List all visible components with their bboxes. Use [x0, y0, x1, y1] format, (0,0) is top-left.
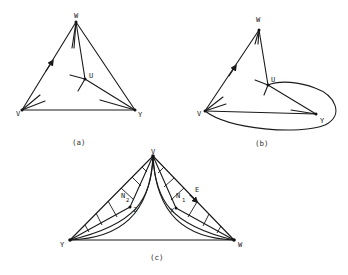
figure-canvas: W U V Y (a) W U V Y (b) — [0, 0, 348, 275]
label-n2: N — [121, 192, 125, 200]
tick-u-1 — [70, 75, 85, 79]
vertex-z-dot — [129, 206, 132, 209]
label-w: W — [74, 12, 79, 20]
vertex-y-dot — [68, 238, 72, 242]
edge-wv — [205, 30, 259, 111]
vertex-w-dot — [232, 238, 236, 242]
edge-wy — [76, 22, 135, 110]
hatching-n2 — [85, 167, 147, 232]
tick-v-1 — [205, 97, 223, 111]
arrow-wv — [229, 67, 235, 76]
panel-c: V Y W Z X E N 2 N 1 (c) — [60, 148, 243, 262]
vertex-u-dot — [84, 78, 87, 81]
label-z: Z — [133, 206, 137, 214]
label-y: Y — [60, 241, 65, 249]
vertex-u-dot — [267, 84, 270, 87]
caption-a: (a) — [72, 138, 86, 147]
tick-u-2 — [78, 79, 85, 91]
label-v: V — [16, 110, 21, 118]
label-v: V — [151, 148, 156, 156]
panel-a: W U V Y (a) — [16, 12, 143, 147]
tick-u-1 — [255, 80, 268, 85]
label-n1-sub: 1 — [182, 197, 185, 203]
caption-b: (b) — [255, 139, 269, 148]
caption-c: (c) — [150, 253, 164, 262]
label-w: W — [256, 16, 261, 24]
hatching-n1 — [158, 167, 221, 233]
label-n1: N — [176, 192, 180, 200]
tick-v-2 — [22, 101, 45, 110]
arrow-wv — [46, 62, 52, 71]
label-e: E — [195, 186, 199, 194]
vertex-w-dot — [75, 21, 78, 24]
edge-wu — [76, 22, 85, 79]
vertex-w-dot — [258, 29, 261, 32]
edge-loop-vu — [205, 82, 336, 130]
label-x: X — [170, 207, 175, 215]
vertex-x-dot — [175, 207, 178, 210]
edge-vy — [70, 156, 153, 240]
label-u: U — [271, 76, 275, 84]
tick-v-2 — [205, 104, 226, 111]
tick-u-2 — [264, 85, 268, 95]
vertex-y-dot — [315, 113, 318, 116]
label-y: Y — [138, 111, 143, 119]
vertex-y-dot — [134, 109, 137, 112]
label-y: Y — [320, 117, 325, 125]
vertex-v-dot — [21, 109, 24, 112]
edge-uy — [85, 79, 135, 110]
panel-b: W U V Y (b) — [197, 16, 336, 148]
tick-v-1 — [22, 95, 40, 110]
vertex-v-dot — [204, 110, 207, 113]
arrow-e — [190, 195, 196, 201]
label-u: U — [89, 72, 93, 80]
label-w: W — [238, 241, 243, 249]
label-v: V — [197, 110, 202, 118]
label-n2-sub: 2 — [126, 197, 129, 203]
edge-wu — [259, 30, 268, 85]
